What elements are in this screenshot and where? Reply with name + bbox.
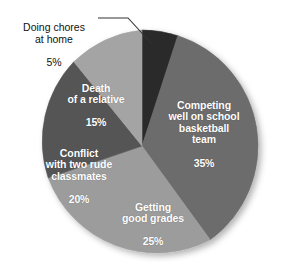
pie-label-percent: 15% <box>53 117 139 129</box>
pie-label-name: Competing well on school basketball team <box>160 100 248 146</box>
pie-chart: Competing well on school basketball team… <box>0 0 282 277</box>
pie-label-doing-chores-at-home: Doing chores at home 5% <box>6 10 102 81</box>
pie-label-conflict-with-two-rude-classmates: Conflict with two rude classmates 20% <box>31 136 127 217</box>
pie-label-competing-well-on-school-basketball-team: Competing well on school basketball team… <box>160 88 248 181</box>
pie-label-name: Conflict with two rude classmates <box>31 148 127 183</box>
pie-label-percent: 25% <box>110 236 196 248</box>
pie-label-name: Death of a relative <box>53 83 139 106</box>
pie-label-percent: 5% <box>6 57 102 69</box>
pie-label-death-of-a-relative: Death of a relative 15% <box>53 71 139 141</box>
pie-label-name: Doing chores at home <box>6 22 102 46</box>
pie-label-percent: 20% <box>31 194 127 206</box>
pie-label-percent: 35% <box>160 158 248 170</box>
